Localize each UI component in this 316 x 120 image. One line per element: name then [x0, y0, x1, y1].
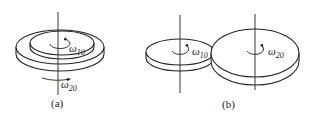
diagram-canvas: ω10 ω20 (a) ω10 ω20 (b) — [0, 0, 316, 120]
figure: ω10 ω20 (a) ω10 ω20 (b) — [0, 0, 316, 120]
omega-20-label-a: ω20 — [61, 78, 77, 93]
panel-a — [16, 12, 104, 95]
caption-b: (b) — [222, 98, 235, 111]
caption-a: (a) — [51, 97, 64, 110]
